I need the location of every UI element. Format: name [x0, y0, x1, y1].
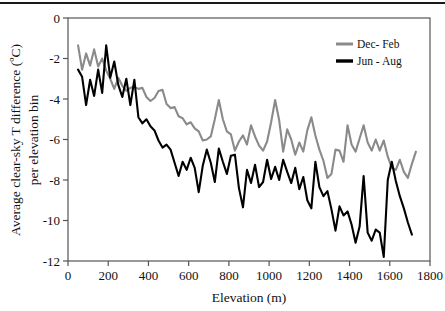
x-tick-label-1200: 1200 [296, 268, 322, 283]
y-axis-tick-labels: 0-2-4-6-8-10-12 [43, 11, 61, 269]
y-tick-label--12: -12 [43, 254, 60, 269]
x-axis-ticks [68, 261, 430, 266]
x-tick-label-800: 800 [219, 268, 239, 283]
chart-legend: Dec- FebJun - Aug [336, 38, 402, 68]
legend-label-jun-aug: Jun - Aug [357, 55, 402, 68]
x-axis-tick-labels: 020040060080010001200140016001800 [65, 268, 443, 283]
legend-label-dec-feb: Dec- Feb [357, 38, 400, 50]
y-tick-label--10: -10 [43, 213, 60, 228]
x-tick-label-0: 0 [65, 268, 72, 283]
top-border-rule [0, 2, 445, 4]
x-axis-title: Elevation (m) [212, 290, 287, 305]
y-tick-label-0: 0 [54, 11, 61, 26]
y-tick-label--2: -2 [49, 51, 60, 66]
x-tick-label-600: 600 [179, 268, 199, 283]
x-tick-label-200: 200 [98, 268, 118, 283]
figure-container: 020040060080010001200140016001800 0-2-4-… [0, 0, 445, 311]
y-tick-label--4: -4 [49, 92, 60, 107]
y-tick-label--6: -6 [49, 132, 60, 147]
x-tick-label-1400: 1400 [337, 268, 363, 283]
y-axis-title-line1: Average clear-sky T difference (ºC) [8, 44, 23, 236]
x-tick-label-1000: 1000 [256, 268, 282, 283]
y-tick-label--8: -8 [49, 173, 60, 188]
x-tick-label-1600: 1600 [377, 268, 403, 283]
data-series-group [78, 45, 416, 257]
line-chart: 020040060080010001200140016001800 0-2-4-… [0, 0, 445, 311]
y-axis-title-line2: per elevation bin [26, 94, 41, 185]
series-line-jun-aug [78, 45, 412, 257]
x-tick-label-1800: 1800 [417, 268, 443, 283]
y-axis-ticks [63, 18, 68, 261]
x-tick-label-400: 400 [139, 268, 159, 283]
